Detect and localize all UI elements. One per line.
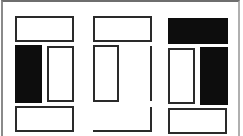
left-top-rect [15, 16, 74, 42]
middle-top-rect [93, 16, 152, 42]
middle-right-line-upper-line [150, 46, 152, 101]
middle-right-line-lower-line [150, 107, 152, 132]
right-bottom-rect [168, 108, 227, 134]
right-top-rect [168, 18, 228, 44]
middle-mid-left-rect [93, 45, 119, 102]
middle-bottom-line-line [93, 130, 152, 132]
right-mid-left-rect [168, 48, 195, 104]
left-mid-right-rect [47, 46, 74, 102]
right-mid-right-rect [200, 47, 228, 105]
left-mid-left-rect [15, 45, 42, 103]
left-bottom-rect [15, 106, 74, 132]
